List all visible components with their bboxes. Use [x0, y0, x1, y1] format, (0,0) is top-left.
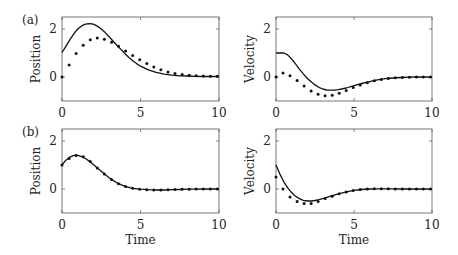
dot-marker — [209, 75, 212, 78]
dot-marker — [89, 38, 92, 41]
dot-marker — [310, 89, 313, 92]
y-tick-label: 2 — [263, 134, 271, 148]
y-tick-label: 0 — [49, 70, 57, 84]
dot-marker — [422, 76, 425, 79]
dot-marker — [202, 188, 205, 191]
dot-marker — [167, 71, 170, 74]
dot-marker — [387, 77, 390, 80]
dot-marker — [110, 41, 113, 44]
dot-marker — [429, 76, 432, 79]
y-axis-label: Velocity — [243, 147, 257, 196]
dot-marker — [68, 157, 71, 160]
dot-marker — [195, 188, 198, 191]
y-axis-label: Position — [29, 35, 43, 84]
dot-marker — [331, 195, 334, 198]
dot-marker — [152, 65, 155, 68]
dot-marker — [289, 195, 292, 198]
plot-b-position: 051002PositionTime — [29, 129, 227, 247]
dot-marker — [82, 155, 85, 158]
dot-marker — [167, 188, 170, 191]
solid-line-series — [276, 53, 432, 90]
dot-marker — [138, 58, 141, 61]
dot-marker — [359, 188, 362, 191]
dot-marker — [303, 85, 306, 88]
dot-marker — [61, 76, 64, 79]
dot-marker — [96, 166, 99, 169]
dot-marker — [61, 164, 64, 167]
dot-marker — [282, 188, 285, 191]
dot-marker — [331, 94, 334, 97]
dot-marker — [401, 76, 404, 79]
dot-marker — [188, 74, 191, 77]
dot-marker — [303, 202, 306, 205]
dot-marker — [75, 154, 78, 157]
x-tick-label: 10 — [424, 106, 439, 120]
x-tick-label: 5 — [350, 106, 358, 120]
y-tick-label: 2 — [263, 22, 271, 36]
plot-a-position: 051002Position — [29, 17, 227, 120]
dot-marker — [82, 44, 85, 47]
dot-marker — [68, 64, 71, 67]
dot-marker — [338, 192, 341, 195]
axes-frame — [62, 129, 219, 213]
solid-line-series — [276, 165, 432, 201]
dot-marker — [181, 188, 184, 191]
dot-marker — [373, 187, 376, 190]
dot-marker — [124, 50, 127, 53]
dot-marker — [415, 76, 418, 79]
dot-marker — [131, 54, 134, 57]
dot-marker — [415, 188, 418, 191]
panel-label-a: (a) — [22, 13, 39, 27]
y-axis-label: Position — [29, 147, 43, 196]
dot-marker — [380, 78, 383, 81]
y-tick-label: 2 — [49, 22, 57, 36]
axes-frame — [276, 129, 432, 213]
solid-line-series — [62, 24, 219, 77]
dot-marker — [429, 188, 432, 191]
x-tick-label: 5 — [350, 218, 358, 232]
x-tick-label: 5 — [137, 218, 145, 232]
x-axis-label: Time — [125, 233, 155, 247]
dot-marker — [103, 173, 106, 176]
dot-marker — [275, 176, 278, 179]
dot-marker — [387, 187, 390, 190]
x-tick-label: 10 — [211, 218, 226, 232]
dot-marker — [401, 188, 404, 191]
dot-marker — [373, 79, 376, 82]
dot-marker — [408, 188, 411, 191]
y-tick-label: 0 — [263, 70, 271, 84]
dot-marker — [394, 76, 397, 79]
dot-marker — [159, 189, 162, 192]
dot-marker — [145, 188, 148, 191]
dot-marker — [145, 62, 148, 65]
dot-marker — [317, 200, 320, 203]
x-tick-label: 10 — [424, 218, 439, 232]
dot-marker — [275, 76, 278, 79]
dot-marker — [408, 76, 411, 79]
dot-marker — [89, 160, 92, 163]
dot-marker — [422, 188, 425, 191]
y-tick-label: 0 — [49, 182, 57, 196]
dot-marker — [159, 68, 162, 71]
x-tick-label: 0 — [58, 106, 66, 120]
plot-a-velocity: 051002Velocity — [243, 17, 440, 120]
dot-marker — [96, 37, 99, 40]
panel-label-b: (b) — [22, 125, 39, 139]
dot-marker — [296, 79, 299, 82]
plot-b-velocity: 051002VelocityTime — [243, 129, 440, 247]
dot-marker — [289, 74, 292, 77]
solid-line-series — [62, 155, 219, 190]
dot-marker — [338, 92, 341, 95]
dot-marker — [202, 75, 205, 78]
dot-marker — [359, 83, 362, 86]
dot-marker — [394, 188, 397, 191]
dot-marker — [117, 45, 120, 48]
x-tick-label: 0 — [58, 218, 66, 232]
dot-marker — [188, 188, 191, 191]
dot-marker — [216, 188, 219, 191]
dot-marker — [75, 52, 78, 55]
dot-marker — [352, 189, 355, 192]
dot-marker — [195, 74, 198, 77]
dot-marker — [296, 200, 299, 203]
x-tick-label: 0 — [272, 218, 280, 232]
